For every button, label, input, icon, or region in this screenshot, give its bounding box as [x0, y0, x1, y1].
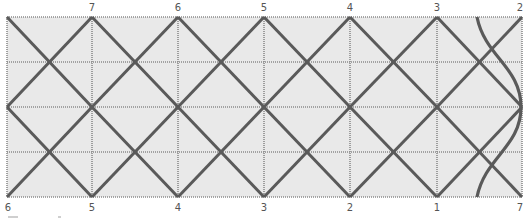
bottom-label-3: 3 [261, 203, 267, 213]
bottom-label-1: 1 [434, 203, 440, 213]
top-label-4: 4 [347, 3, 353, 13]
top-label-3: 3 [434, 3, 440, 13]
top-label-7: 7 [89, 3, 95, 13]
top-label-6: 6 [175, 3, 181, 13]
bottom-label-7: 7 [517, 203, 523, 213]
bottom-label-4: 4 [175, 203, 181, 213]
top-label-2: 2 [517, 3, 523, 13]
cropped-fragment [8, 216, 18, 218]
diagram-canvas [0, 0, 526, 219]
fold-diagram: 7 6 5 4 3 2 6 5 4 3 2 1 7 [0, 0, 526, 219]
bottom-label-6: 6 [5, 203, 11, 213]
bottom-label-2: 2 [347, 203, 353, 213]
top-label-5: 5 [261, 3, 267, 13]
cropped-fragment [58, 216, 61, 218]
bottom-label-5: 5 [89, 203, 95, 213]
